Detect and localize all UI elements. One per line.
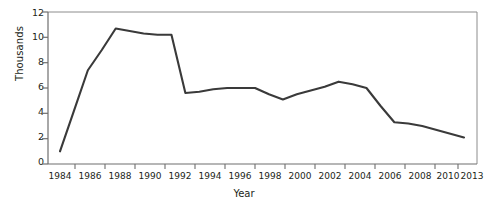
x-axis-ticks <box>75 164 458 169</box>
line-chart: Thousands Year 12 10 8 6 4 2 0 1984 1986… <box>0 0 488 210</box>
y-axis-ticks <box>42 12 48 164</box>
data-series-line <box>60 28 464 151</box>
plot-area <box>0 0 488 210</box>
